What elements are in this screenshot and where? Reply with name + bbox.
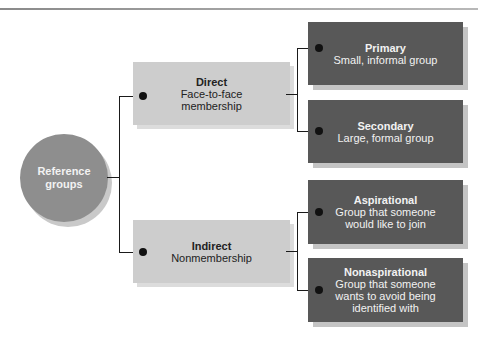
secondary-node: Secondary Large, formal group xyxy=(308,100,463,163)
secondary-connector-dot xyxy=(315,127,323,135)
direct-subtitle-line1: Face-to-face xyxy=(181,88,243,100)
aspirational-description-line1: Group that someone xyxy=(335,206,435,218)
connector-indirect-vertical xyxy=(297,212,298,291)
secondary-title: Secondary xyxy=(357,120,413,132)
direct-title: Direct xyxy=(196,76,227,88)
direct-connector-dot xyxy=(139,92,147,100)
connector-root-vertical xyxy=(119,96,120,253)
primary-connector-dot xyxy=(315,44,323,52)
primary-description: Small, informal group xyxy=(334,54,438,66)
primary-node: Primary Small, informal group xyxy=(308,22,463,85)
root-label-line2: groups xyxy=(37,178,90,191)
root-node-reference-groups: Reference groups xyxy=(20,134,108,222)
aspirational-title: Aspirational xyxy=(354,194,418,206)
root-label-line1: Reference xyxy=(37,165,90,178)
nonaspirational-description-line3: identified with xyxy=(352,302,419,314)
indirect-connector-dot xyxy=(139,248,147,256)
direct-node: Direct Face-to-face membership xyxy=(133,62,290,125)
nonaspirational-description-line2: wants to avoid being xyxy=(335,290,435,302)
aspirational-node: Aspirational Group that someone would li… xyxy=(308,180,463,244)
secondary-description: Large, formal group xyxy=(338,132,434,144)
nonaspirational-description-line1: Group that someone xyxy=(335,278,435,290)
indirect-title: Indirect xyxy=(192,240,232,252)
connector-direct-vertical xyxy=(297,48,298,132)
aspirational-description-line2: would like to join xyxy=(345,218,426,230)
indirect-subtitle-line1: Nonmembership xyxy=(171,252,252,264)
nonaspirational-connector-dot xyxy=(315,286,323,294)
indirect-node: Indirect Nonmembership xyxy=(133,220,290,283)
aspirational-connector-dot xyxy=(315,208,323,216)
nonaspirational-node: Nonaspirational Group that someone wants… xyxy=(308,258,463,322)
direct-subtitle-line2: membership xyxy=(181,100,242,112)
primary-title: Primary xyxy=(365,42,406,54)
top-rule xyxy=(0,8,478,10)
nonaspirational-title: Nonaspirational xyxy=(344,266,427,278)
